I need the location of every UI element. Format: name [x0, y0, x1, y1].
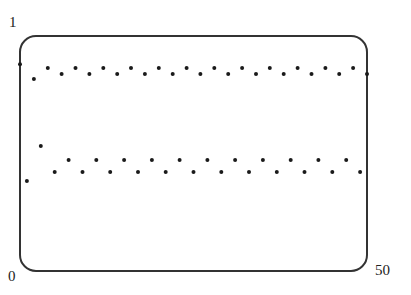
data-point — [365, 72, 369, 76]
data-point — [268, 66, 272, 70]
plot-frame — [20, 36, 367, 271]
data-point — [150, 158, 154, 162]
data-point — [39, 144, 43, 148]
data-point — [296, 66, 300, 70]
origin-label: 0 — [8, 268, 16, 285]
data-point — [240, 66, 244, 70]
data-point — [358, 170, 362, 174]
data-point — [185, 66, 189, 70]
data-point — [53, 170, 57, 174]
data-point — [289, 158, 293, 162]
data-point — [46, 66, 50, 70]
data-point — [94, 158, 98, 162]
data-point — [205, 158, 209, 162]
data-point — [60, 72, 64, 76]
data-point — [303, 170, 307, 174]
data-point — [81, 170, 85, 174]
data-point — [323, 66, 327, 70]
data-point — [219, 170, 223, 174]
data-point — [233, 158, 237, 162]
data-point — [108, 170, 112, 174]
data-point — [32, 77, 36, 81]
data-point — [192, 170, 196, 174]
data-point — [157, 66, 161, 70]
data-point — [101, 66, 105, 70]
data-point — [261, 158, 265, 162]
data-point — [282, 72, 286, 76]
data-point — [275, 170, 279, 174]
data-point — [351, 66, 355, 70]
data-points — [18, 62, 369, 183]
data-point — [129, 66, 133, 70]
data-point — [122, 158, 126, 162]
data-point — [198, 72, 202, 76]
chart-plot — [0, 0, 411, 295]
data-point — [87, 72, 91, 76]
data-point — [247, 170, 251, 174]
data-point — [18, 62, 22, 66]
data-point — [74, 66, 78, 70]
data-point — [254, 72, 258, 76]
data-point — [143, 72, 147, 76]
data-point — [226, 72, 230, 76]
data-point — [136, 170, 140, 174]
data-point — [330, 170, 334, 174]
data-point — [115, 72, 119, 76]
data-point — [67, 158, 71, 162]
data-point — [344, 158, 348, 162]
data-point — [310, 72, 314, 76]
data-point — [25, 179, 29, 183]
data-point — [337, 72, 341, 76]
data-point — [171, 72, 175, 76]
y-axis-top-label: 1 — [9, 14, 17, 31]
data-point — [178, 158, 182, 162]
data-point — [164, 170, 168, 174]
data-point — [316, 158, 320, 162]
data-point — [212, 66, 216, 70]
x-axis-right-label: 50 — [375, 262, 390, 279]
